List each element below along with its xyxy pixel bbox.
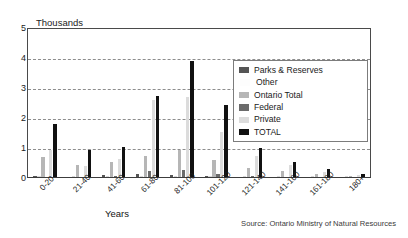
- bar-group: [62, 29, 96, 178]
- bar: [122, 147, 125, 179]
- legend-item[interactable]: Ontario Total: [239, 89, 363, 101]
- legend-swatch-icon: [239, 117, 249, 124]
- y-axis-tick-label: 0: [8, 173, 26, 183]
- bar: [224, 105, 227, 179]
- x-axis-tick: 121-140: [233, 178, 267, 214]
- bar: [178, 150, 181, 179]
- legend-swatch-icon: [239, 104, 249, 111]
- x-axis-tick-label: 0-20: [38, 174, 56, 192]
- bar: [110, 162, 113, 179]
- bar: [88, 150, 91, 179]
- legend-item[interactable]: TOTAL: [239, 126, 363, 138]
- y-axis-title: Thousands: [36, 17, 83, 28]
- legend-item[interactable]: Parks & Reserves: [239, 64, 363, 76]
- x-axis-title: Years: [27, 208, 207, 219]
- x-axis-tick: 141-160: [268, 178, 302, 214]
- bar: [76, 165, 79, 179]
- legend-label: Ontario Total: [254, 91, 303, 100]
- legend-item[interactable]: Other: [239, 76, 363, 88]
- legend-label: Private: [254, 115, 281, 124]
- bar: [190, 61, 193, 178]
- y-axis-tick-label: 1: [8, 143, 26, 153]
- bar: [186, 97, 189, 178]
- source-note: Source: Ontario Ministry of Natural Reso…: [0, 219, 396, 228]
- y-axis-tick-label: 5: [8, 23, 26, 33]
- chart-legend: Parks & ReservesOtherOntario TotalFedera…: [233, 60, 368, 142]
- bar-group: [165, 29, 199, 178]
- legend-label: Federal: [254, 103, 283, 112]
- bar: [156, 96, 159, 179]
- bar: [212, 160, 215, 178]
- bar: [144, 156, 147, 179]
- legend-swatch-icon: [239, 78, 251, 87]
- bar-group: [28, 29, 62, 178]
- bar-group: [96, 29, 130, 178]
- legend-swatch-icon: [239, 92, 249, 99]
- legend-swatch-icon: [239, 67, 249, 74]
- bar: [41, 157, 44, 178]
- bar-group: [131, 29, 165, 178]
- bar-group: [199, 29, 233, 178]
- bar: [53, 124, 56, 178]
- legend-swatch-icon: [239, 129, 249, 136]
- bar: [152, 100, 155, 178]
- legend-item[interactable]: Federal: [239, 101, 363, 113]
- legend-label: Other: [256, 78, 278, 87]
- legend-item[interactable]: Private: [239, 114, 363, 126]
- y-axis-tick-label: 3: [8, 83, 26, 93]
- x-axis-tick: 161-180: [302, 178, 336, 214]
- y-axis-tick-labels: 012345: [4, 0, 26, 238]
- legend-label: TOTAL: [254, 128, 281, 137]
- legend-label: Parks & Reserves: [254, 66, 323, 75]
- y-axis-tick-label: 4: [8, 53, 26, 63]
- chart-figure: Thousands 012345 0-2021-4041-6061-8081-1…: [0, 0, 408, 238]
- x-axis-tick: 180+: [337, 178, 371, 214]
- y-axis-tick-label: 2: [8, 113, 26, 123]
